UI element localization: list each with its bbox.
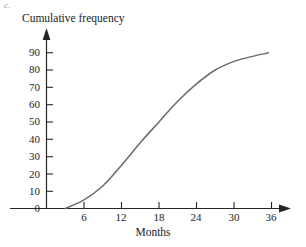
plot-area <box>0 0 306 247</box>
x-tick-label-36: 36 <box>259 212 283 223</box>
y-tick-label-60: 60 <box>14 99 40 110</box>
y-axis <box>43 28 51 209</box>
y-tick-label-10: 10 <box>14 186 40 197</box>
cumulative-frequency-figure: c. Cumulative frequency <box>0 0 306 247</box>
y-tick-label-0: 0 <box>14 203 40 214</box>
x-tick-label-24: 24 <box>184 212 208 223</box>
y-tick-label-50: 50 <box>14 116 40 127</box>
y-tick-label-90: 90 <box>14 47 40 58</box>
cumulative-frequency-curve <box>65 53 268 209</box>
x-tick-label-30: 30 <box>222 212 246 223</box>
y-tick-label-30: 30 <box>14 151 40 162</box>
x-axis-ticks <box>84 202 272 209</box>
x-axis-title: Months <box>0 226 306 238</box>
y-tick-label-80: 80 <box>14 64 40 75</box>
x-tick-label-6: 6 <box>72 212 96 223</box>
x-tick-label-12: 12 <box>109 212 133 223</box>
x-tick-label-18: 18 <box>147 212 171 223</box>
y-tick-label-20: 20 <box>14 169 40 180</box>
y-tick-label-40: 40 <box>14 134 40 145</box>
y-axis-ticks <box>47 53 54 192</box>
y-tick-label-70: 70 <box>14 82 40 93</box>
